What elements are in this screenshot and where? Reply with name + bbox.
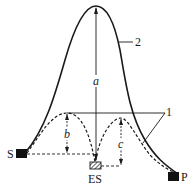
es-complex-box bbox=[90, 162, 101, 169]
label-substrate: S bbox=[7, 148, 14, 160]
label-b: b bbox=[64, 128, 70, 140]
label-es: ES bbox=[88, 173, 102, 185]
diagram-graphics bbox=[0, 0, 193, 190]
label-c: c bbox=[118, 138, 123, 150]
label-curve-1: 1 bbox=[166, 106, 172, 118]
label-a: a bbox=[92, 75, 100, 87]
curve-uncatalyzed bbox=[25, 6, 178, 174]
product-block bbox=[168, 172, 179, 181]
energy-diagram: 2 1 a b c S ES P bbox=[0, 0, 193, 190]
label-curve-2: 2 bbox=[135, 36, 141, 48]
label-product: P bbox=[181, 171, 188, 183]
curve-catalyzed bbox=[27, 113, 176, 173]
substrate-block bbox=[16, 149, 27, 158]
leader-1 bbox=[143, 113, 165, 143]
